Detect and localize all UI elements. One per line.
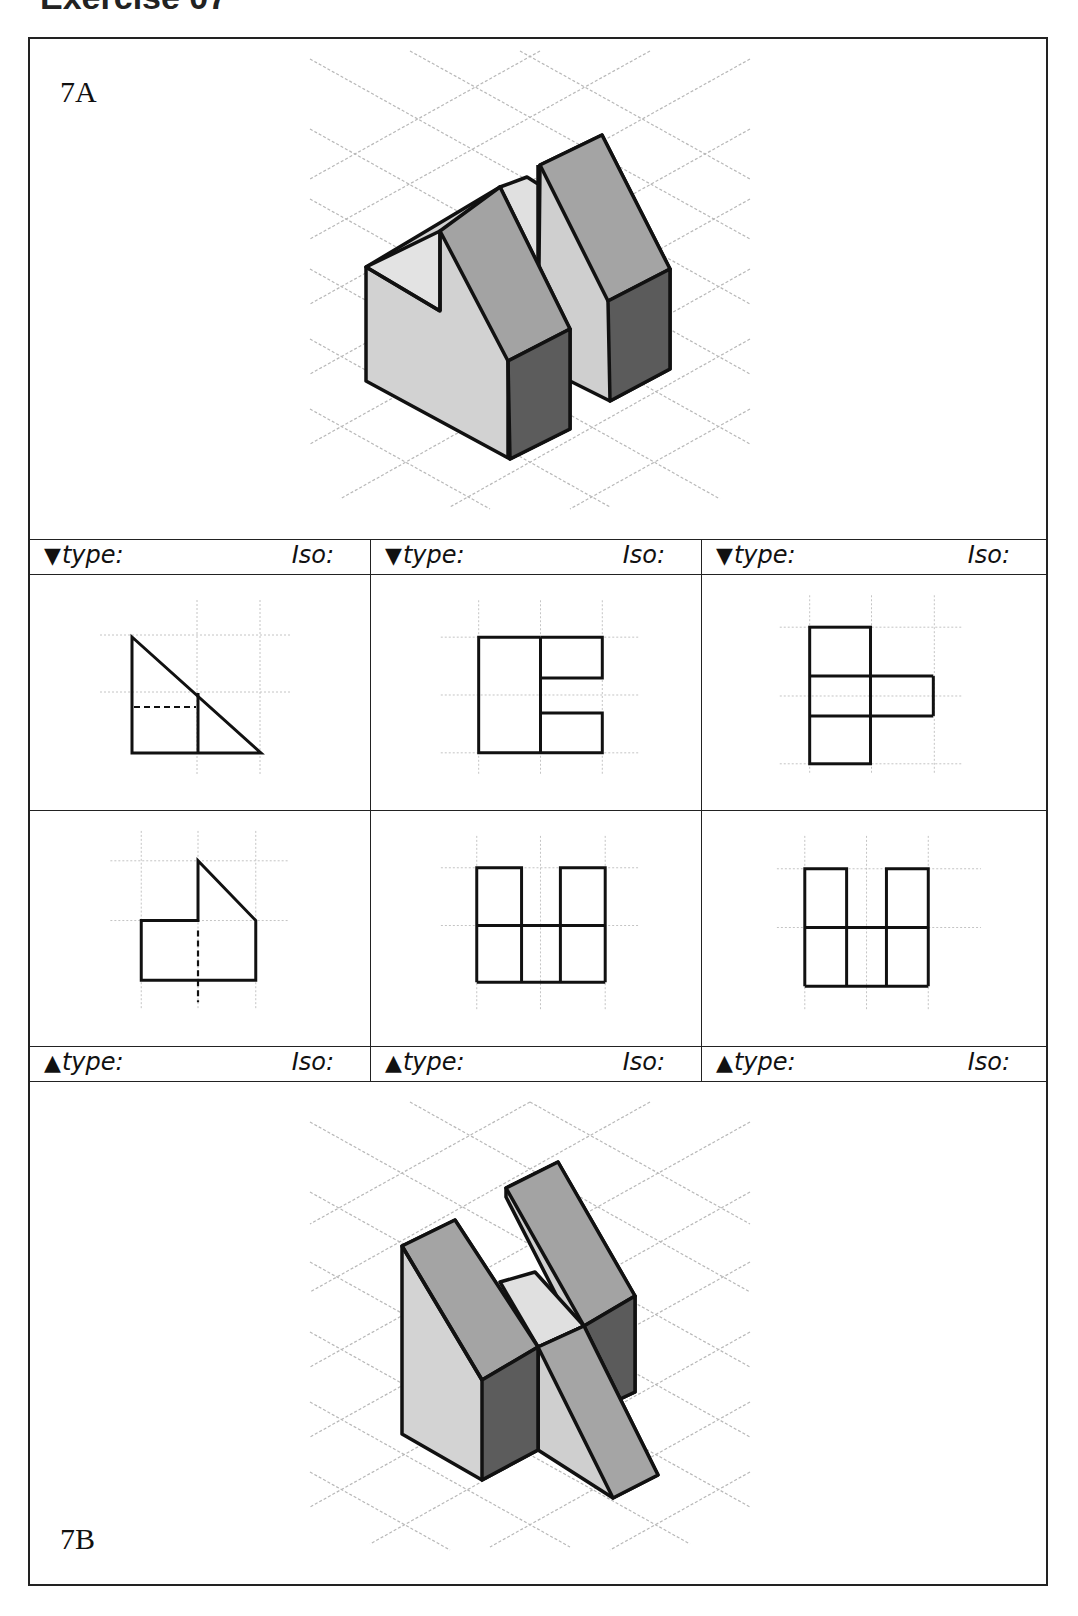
triangle-down-icon: ▼ <box>385 543 402 568</box>
orthographic-view-drawing <box>30 575 370 810</box>
orthographic-view-drawing <box>371 575 701 810</box>
iso-label: Iso: <box>623 1048 665 1076</box>
view-cross-shape <box>701 575 1046 810</box>
type-field-label: ▼type: <box>716 541 796 569</box>
view-double-post-wide <box>370 810 701 1046</box>
orthographic-view-drawing <box>702 575 1046 810</box>
object-7a <box>366 135 670 459</box>
iso-label: Iso: <box>623 541 665 569</box>
view-grid <box>441 836 640 1010</box>
header-cell: ▲type: Iso: <box>30 1047 370 1081</box>
header-cell: ▲type: Iso: <box>370 1047 701 1081</box>
object-7b <box>402 1162 658 1498</box>
type-field-label: ▼type: <box>44 541 124 569</box>
iso-label: Iso: <box>292 1048 334 1076</box>
type-field-label: ▲type: <box>716 1048 796 1076</box>
header-row-bottom: ▲type: Iso: ▲type: Iso: ▲type: Iso: <box>30 1046 1046 1082</box>
type-field-label: ▲type: <box>44 1048 124 1076</box>
view-double-post-narrow <box>701 810 1046 1046</box>
type-field-label: ▲type: <box>385 1048 465 1076</box>
iso-label: Iso: <box>968 1048 1010 1076</box>
type-label: type: <box>403 541 465 569</box>
type-label: type: <box>62 541 124 569</box>
iso-label: Iso: <box>968 541 1010 569</box>
view-notched-shape <box>370 575 701 810</box>
header-cell: ▼type: Iso: <box>30 540 370 574</box>
page-title: Exercise 07 <box>40 0 227 17</box>
triangle-up-icon: ▲ <box>44 1050 61 1075</box>
type-label: type: <box>62 1048 124 1076</box>
type-label: type: <box>734 1048 796 1076</box>
type-label: type: <box>403 1048 465 1076</box>
triangle-down-icon: ▼ <box>716 543 733 568</box>
triangle-up-icon: ▲ <box>716 1050 733 1075</box>
header-cell: ▼type: Iso: <box>370 540 701 574</box>
view-grid <box>100 600 290 775</box>
triangle-up-icon: ▲ <box>385 1050 402 1075</box>
view-grid <box>777 836 981 1010</box>
view-grid <box>110 831 289 1010</box>
isometric-drawing-7a <box>30 39 1046 539</box>
type-label: type: <box>734 541 796 569</box>
isometric-drawing-7b <box>30 1082 1046 1584</box>
orthographic-view-drawing <box>371 811 701 1046</box>
exercise-sheet: 7A <box>28 37 1048 1586</box>
iso-label: Iso: <box>292 541 334 569</box>
iso-panel-7b: 7B <box>30 1082 1046 1584</box>
header-cell: ▲type: Iso: <box>701 1047 1046 1081</box>
orthographic-views-grid <box>30 575 1046 1046</box>
iso-panel-7a: 7A <box>30 39 1046 539</box>
view-stepped-profile <box>30 810 370 1046</box>
orthographic-view-drawing <box>30 811 370 1046</box>
header-row-top: ▼type: Iso: ▼type: Iso: ▼type: Iso: <box>30 539 1046 575</box>
type-field-label: ▼type: <box>385 541 465 569</box>
triangle-down-icon: ▼ <box>44 543 61 568</box>
header-cell: ▼type: Iso: <box>701 540 1046 574</box>
orthographic-view-drawing <box>702 811 1046 1046</box>
panel-label-7b: 7B <box>60 1522 95 1556</box>
view-right-triangle <box>30 575 370 810</box>
